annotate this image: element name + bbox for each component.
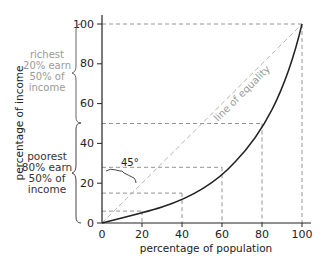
horizontal-reference-lines xyxy=(102,24,302,211)
richest-annotation: richest 20% earn 50% of income xyxy=(23,49,71,93)
x-ticks xyxy=(142,223,302,227)
x-tick-80: 80 xyxy=(255,228,269,241)
x-axis-title: percentage of population xyxy=(140,242,272,254)
x-tick-40: 40 xyxy=(175,228,189,241)
y-tick-60: 60 xyxy=(80,97,94,110)
svg-text:richest: richest xyxy=(30,49,64,60)
svg-text:50% of: 50% of xyxy=(29,71,65,82)
svg-text:20% earn: 20% earn xyxy=(23,60,71,71)
lorenz-curve-diagram: line of equality 100 80 60 40 20 0 0 20 … xyxy=(0,0,327,265)
svg-text:income: income xyxy=(28,183,66,195)
x-tick-100: 100 xyxy=(292,228,313,241)
x-tick-0: 0 xyxy=(99,228,106,241)
x-tick-60: 60 xyxy=(215,228,229,241)
y-ticks xyxy=(97,24,102,223)
y-tick-0: 0 xyxy=(87,217,94,230)
angle-brace xyxy=(106,169,136,183)
y-tick-40: 40 xyxy=(80,137,94,150)
y-tick-80: 80 xyxy=(80,57,94,70)
angle-label: 45° xyxy=(121,157,139,168)
y-tick-20: 20 xyxy=(80,177,94,190)
x-tick-20: 20 xyxy=(135,228,149,241)
poorest-annotation: poorest 80% earn 50% of income xyxy=(22,150,72,195)
svg-text:income: income xyxy=(29,82,66,93)
line-of-equality-label: line of equality xyxy=(212,63,273,123)
